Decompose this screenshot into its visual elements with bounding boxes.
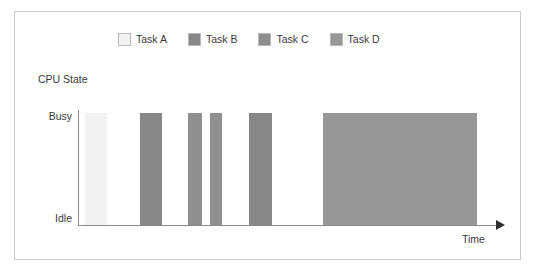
bar-task-c[interactable]: [210, 113, 222, 225]
cpu-state-timeline-figure: Task ATask BTask CTask D CPU State Busy …: [0, 0, 535, 274]
bar-task-b[interactable]: [249, 113, 272, 225]
bar-task-c[interactable]: [188, 113, 202, 225]
bar-task-b[interactable]: [140, 113, 162, 225]
bars-layer: [0, 0, 535, 274]
bar-task-a[interactable]: [85, 113, 107, 225]
bar-task-d[interactable]: [323, 113, 477, 225]
